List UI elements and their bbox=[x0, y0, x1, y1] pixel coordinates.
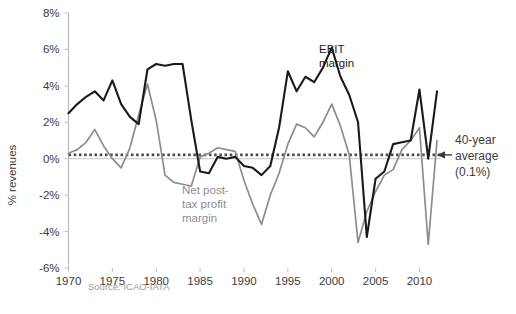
x-axis-tick-label: 2010 bbox=[407, 275, 433, 287]
y-axis-tick-label: -6% bbox=[39, 262, 59, 274]
chart-background bbox=[0, 0, 516, 314]
ebit-margin-label-line-2: margin bbox=[319, 57, 354, 69]
average-label-line-2: average bbox=[455, 149, 499, 163]
y-axis-tick-label: -4% bbox=[39, 226, 59, 238]
x-axis-tick-label: 1995 bbox=[275, 275, 301, 287]
y-axis-title: % revenues bbox=[6, 144, 18, 205]
y-axis-tick-label: 6% bbox=[43, 43, 60, 55]
net-margin-label-line-3: margin bbox=[182, 212, 217, 224]
average-label-line-3: (0.1%) bbox=[455, 165, 490, 179]
y-axis-tick-label: 4% bbox=[43, 80, 60, 92]
y-axis-tick-label: 2% bbox=[43, 116, 60, 128]
airline-margins-line-chart: 8%6%4%2%0%-2%-4%-6% 19701975198019851990… bbox=[0, 0, 516, 314]
net-margin-label-line-2: tax profit bbox=[182, 198, 227, 210]
chart-container: 8%6%4%2%0%-2%-4%-6% 19701975198019851990… bbox=[0, 0, 516, 314]
x-axis-tick-label: 2000 bbox=[319, 275, 345, 287]
y-axis-tick-label: 8% bbox=[43, 7, 60, 19]
source-note: Source: ICAO-IATA bbox=[88, 281, 170, 292]
net-margin-label-line-1: Net post- bbox=[182, 184, 229, 196]
y-axis-tick-label: 0% bbox=[43, 153, 60, 165]
average-label-line-1: 40-year bbox=[455, 133, 496, 147]
x-axis-tick-label: 1985 bbox=[187, 275, 213, 287]
ebit-margin-label-line-1: EBIT bbox=[319, 43, 345, 55]
y-axis-tick-label: -2% bbox=[39, 189, 59, 201]
x-axis-tick-label: 1970 bbox=[56, 275, 82, 287]
x-axis-tick-label: 1990 bbox=[231, 275, 257, 287]
x-axis-tick-label: 2005 bbox=[363, 275, 389, 287]
